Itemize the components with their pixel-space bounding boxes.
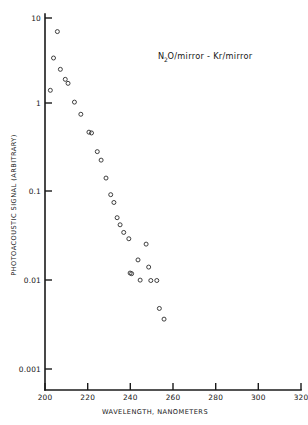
- x-axis-title: WAVELENGTH, NANOMETERS: [102, 408, 208, 416]
- annotation-post: O/mirror - Kr/mirror: [168, 51, 253, 61]
- data-point: [127, 237, 131, 241]
- x-tick-label: 280: [208, 393, 223, 402]
- data-point: [58, 67, 62, 71]
- data-point: [52, 56, 56, 60]
- x-tick-label: 220: [80, 393, 95, 402]
- data-point: [66, 81, 70, 85]
- data-point: [136, 258, 140, 262]
- y-tick-label: 10: [31, 14, 41, 23]
- y-tick-label: 0.01: [24, 276, 41, 285]
- data-point: [63, 77, 67, 81]
- data-point: [147, 265, 151, 269]
- photoacoustic-spectrum-chart: 10 1 0.1 0.01 0.001 200 220 240 260 280 …: [0, 0, 308, 425]
- data-point: [118, 223, 122, 227]
- data-point: [112, 200, 116, 204]
- data-point: [79, 112, 83, 116]
- y-axis-tick-labels: 10 1 0.1 0.01 0.001: [19, 14, 41, 374]
- x-tick-label: 300: [251, 393, 266, 402]
- y-tick-label: 1: [36, 99, 41, 108]
- y-tick-label: 0.001: [19, 365, 41, 374]
- data-point: [72, 100, 76, 104]
- data-point: [90, 131, 94, 135]
- y-tick-label: 0.1: [29, 187, 41, 196]
- data-point: [162, 317, 166, 321]
- data-point-group: [48, 30, 166, 322]
- data-point: [149, 279, 153, 283]
- x-tick-label: 320: [294, 393, 308, 402]
- data-point: [144, 242, 148, 246]
- data-point: [138, 278, 142, 282]
- data-point: [115, 216, 119, 220]
- series-annotation: N 2 O/mirror - Kr/mirror: [158, 51, 253, 63]
- data-point: [104, 176, 108, 180]
- y-axis-major-ticks: [45, 18, 52, 369]
- x-tick-label: 200: [38, 393, 53, 402]
- x-tick-label: 260: [166, 393, 181, 402]
- data-point: [48, 88, 52, 92]
- data-point: [87, 130, 91, 134]
- data-point: [155, 279, 159, 283]
- data-point: [55, 30, 59, 34]
- data-point: [122, 230, 126, 234]
- x-axis-tick-labels: 200 220 240 260 280 300 320: [38, 393, 308, 402]
- x-axis-ticks: [45, 383, 301, 390]
- y-axis-title: PHOTOACOUSTIC SIGNAL (ARBITRARY): [10, 134, 18, 276]
- data-point: [95, 150, 99, 154]
- x-tick-label: 240: [123, 393, 138, 402]
- data-point: [157, 306, 161, 310]
- data-point: [109, 193, 113, 197]
- data-point: [99, 158, 103, 162]
